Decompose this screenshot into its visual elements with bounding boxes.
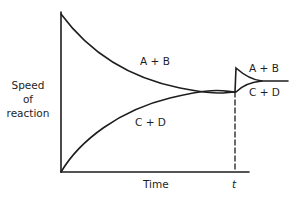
x-axis-label: Time	[143, 178, 169, 190]
y-label-line-3: reaction	[6, 106, 50, 120]
label-reverse-after: C + D	[249, 86, 280, 98]
forward-reaction-curve	[61, 14, 235, 93]
y-axis-label: Speed of reaction	[6, 78, 50, 120]
label-reverse-before: C + D	[135, 116, 166, 128]
reverse-reaction-curve	[61, 91, 235, 173]
label-forward-after: A + B	[249, 62, 279, 74]
t-tick-label: t	[232, 178, 236, 190]
y-label-line-1: Speed	[6, 78, 50, 92]
label-forward-before: A + B	[140, 55, 170, 67]
y-label-line-2: of	[6, 92, 50, 106]
